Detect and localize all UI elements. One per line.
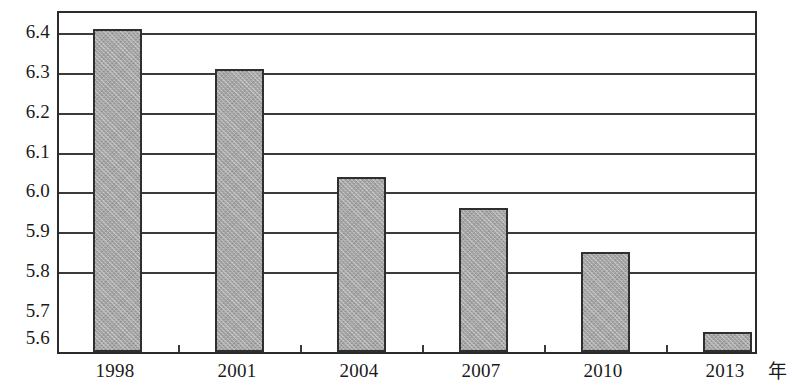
x-axis-tick-label-1998: 1998 bbox=[70, 359, 160, 383]
y-axis-tick-label: 6.1 bbox=[2, 142, 50, 161]
x-axis-tick-label-2001: 2001 bbox=[192, 359, 282, 383]
y-axis-tick-label: 6.3 bbox=[2, 62, 50, 81]
x-axis-tick-label-2010: 2010 bbox=[558, 359, 648, 383]
y-axis-tick-label: 5.7 bbox=[2, 301, 50, 320]
x-axis-minor-ticks bbox=[59, 13, 755, 352]
x-axis-tick-label-2013: 2013 bbox=[680, 359, 770, 383]
x-axis-labels: 1998 2001 2004 2007 2010 2013 bbox=[57, 357, 757, 386]
x-axis-unit-label: 年 bbox=[768, 359, 787, 383]
x-axis-minor-tick bbox=[544, 345, 546, 352]
x-axis-tick-label-2004: 2004 bbox=[314, 359, 404, 383]
y-axis-tick-label: 6.4 bbox=[2, 22, 50, 41]
y-axis-tick-label: 6.2 bbox=[2, 102, 50, 121]
bar-chart: 6.4 6.3 6.2 6.1 6.0 5.9 5.8 5.7 5.6 bbox=[0, 0, 793, 386]
x-axis-tick-label-2007: 2007 bbox=[436, 359, 526, 383]
y-axis-tick-label: 5.8 bbox=[2, 261, 50, 280]
y-axis-tick-label: 6.0 bbox=[2, 181, 50, 200]
x-axis-minor-tick bbox=[666, 345, 668, 352]
x-axis-minor-tick bbox=[300, 345, 302, 352]
x-axis-minor-tick bbox=[178, 345, 180, 352]
y-axis-tick-label: 5.9 bbox=[2, 221, 50, 240]
y-axis-tick-label: 5.6 bbox=[2, 328, 50, 347]
y-axis-labels: 6.4 6.3 6.2 6.1 6.0 5.9 5.8 5.7 5.6 bbox=[0, 11, 50, 354]
plot-area bbox=[57, 11, 757, 354]
x-axis-minor-tick bbox=[422, 345, 424, 352]
